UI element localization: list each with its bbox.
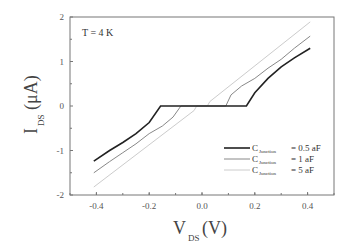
- temperature-annotation: T = 4 K: [82, 27, 114, 38]
- legend-item-0: CJunction= 0.5 aF: [224, 143, 321, 154]
- y-tick-label: 0: [60, 101, 65, 111]
- svg-text:Junction: Junction: [259, 149, 276, 154]
- x-tick-label: 0.2: [249, 201, 260, 211]
- svg-text:DS: DS: [188, 233, 200, 243]
- svg-text:C: C: [252, 154, 258, 164]
- y-tick-label: -1: [57, 146, 65, 156]
- svg-text:Junction: Junction: [259, 171, 276, 176]
- svg-text:DS: DS: [36, 114, 46, 126]
- iv-chart: -0.4-0.20.00.20.4 -2-1012 T = 4 K CJunct…: [0, 0, 350, 251]
- y-axis-title: I DS (μA): [21, 75, 46, 134]
- x-tick-label: -0.2: [142, 201, 156, 211]
- legend-item-2: CJunction= 5 aF: [224, 165, 314, 176]
- svg-text:= 0.5 aF: = 0.5 aF: [291, 143, 321, 153]
- series-line-0: [94, 48, 310, 161]
- svg-text:(V): (V): [202, 218, 227, 239]
- x-tick-label: 0.0: [196, 201, 208, 211]
- legend-item-1: CJunction= 1 aF: [224, 154, 314, 165]
- svg-text:Junction: Junction: [259, 160, 276, 165]
- series-line-1: [94, 36, 310, 173]
- series-layer: [94, 22, 310, 187]
- y-tick-label: 1: [60, 57, 65, 67]
- series-line-2: [94, 22, 310, 187]
- svg-text:(μA): (μA): [21, 75, 42, 110]
- svg-text:= 1 aF: = 1 aF: [291, 154, 314, 164]
- y-axis: -2-1012: [57, 12, 74, 200]
- svg-text:C: C: [252, 165, 258, 175]
- y-tick-label: -2: [57, 190, 65, 200]
- x-tick-label: -0.4: [89, 201, 104, 211]
- y-tick-label: 2: [60, 12, 65, 22]
- x-tick-label: 0.4: [302, 201, 314, 211]
- svg-text:= 5 aF: = 5 aF: [291, 165, 314, 175]
- svg-text:V: V: [173, 218, 186, 238]
- svg-text:I: I: [21, 128, 41, 134]
- x-axis-title: V DS (V): [173, 218, 227, 243]
- legend: CJunction= 0.5 aFCJunction= 1 aFCJunctio…: [224, 143, 321, 176]
- svg-text:C: C: [252, 143, 258, 153]
